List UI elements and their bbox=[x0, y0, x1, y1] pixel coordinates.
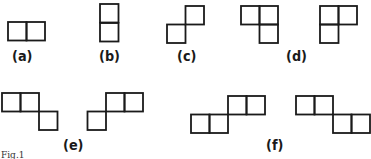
polyomino-e-1 bbox=[2, 93, 58, 130]
square-cell bbox=[8, 22, 27, 41]
square-cell bbox=[296, 96, 315, 115]
square-cell bbox=[39, 112, 58, 131]
polyomino-d-2 bbox=[320, 6, 357, 43]
square-cell bbox=[352, 115, 371, 134]
square-cell bbox=[210, 115, 229, 134]
square-cell bbox=[106, 93, 125, 112]
square-cell bbox=[260, 6, 279, 25]
polyomino-b-1 bbox=[100, 4, 119, 42]
square-cell bbox=[100, 23, 119, 42]
shape-group-d bbox=[241, 6, 357, 43]
square-cell bbox=[88, 112, 107, 131]
shape-group-a bbox=[8, 22, 45, 41]
square-cell bbox=[260, 25, 279, 44]
figure-caption: Fig.1 bbox=[1, 151, 24, 159]
square-cell bbox=[167, 25, 186, 44]
polyomino-a-1 bbox=[8, 22, 45, 41]
polyomino-c-1 bbox=[167, 6, 204, 43]
square-cell bbox=[27, 22, 46, 41]
polyomino-f-2 bbox=[296, 96, 370, 133]
square-cell bbox=[228, 96, 247, 115]
square-cell bbox=[241, 6, 260, 25]
polyomino-e-2 bbox=[88, 93, 144, 130]
shape-group-e bbox=[2, 93, 143, 130]
square-cell bbox=[315, 96, 334, 115]
square-cell bbox=[320, 6, 339, 25]
square-cell bbox=[21, 93, 40, 112]
label-d: (d) bbox=[286, 49, 307, 63]
square-cell bbox=[247, 96, 266, 115]
square-cell bbox=[186, 6, 205, 25]
square-cell bbox=[191, 115, 210, 134]
label-b: (b) bbox=[99, 49, 120, 63]
square-cell bbox=[320, 25, 339, 44]
label-e: (e) bbox=[63, 138, 84, 152]
shape-group-b bbox=[100, 4, 119, 42]
shape-group-c bbox=[167, 6, 204, 43]
label-c: (c) bbox=[177, 49, 196, 63]
square-cell bbox=[100, 4, 119, 23]
shapes-canvas bbox=[0, 0, 371, 159]
polyomino-f-1 bbox=[191, 96, 265, 133]
square-cell bbox=[339, 6, 358, 25]
square-cell bbox=[2, 93, 21, 112]
polyomino-figure: (a)(b)(c)(d)(e)(f) Fig.1 bbox=[0, 0, 371, 159]
square-cell bbox=[333, 115, 352, 134]
shape-group-f bbox=[191, 96, 370, 133]
label-a: (a) bbox=[12, 49, 32, 63]
label-f: (f) bbox=[266, 138, 283, 152]
square-cell bbox=[125, 93, 144, 112]
polyomino-d-1 bbox=[241, 6, 278, 43]
